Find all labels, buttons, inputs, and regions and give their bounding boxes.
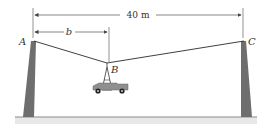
offset-label: b [66, 26, 72, 37]
point-label-c: C [248, 36, 256, 47]
diagram-canvas: 40 m b A B C [0, 0, 264, 128]
pole-left [23, 41, 36, 117]
cable [34, 41, 244, 63]
point-label-a: A [18, 36, 26, 47]
offset-dimension: b [35, 26, 107, 37]
point-label-b: B [110, 64, 118, 75]
ground-band [15, 117, 257, 124]
span-dimension: 40 m [35, 10, 241, 20]
pole-right [241, 41, 252, 117]
span-label: 40 m [127, 10, 150, 20]
